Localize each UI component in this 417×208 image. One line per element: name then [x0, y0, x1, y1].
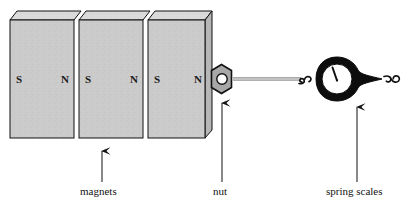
string [233, 78, 301, 81]
nut-hole [217, 74, 227, 84]
diagram-canvas [0, 0, 417, 208]
right-s-hook-icon [384, 76, 399, 82]
magnet-2-top-face [79, 11, 150, 20]
magnet-1-left-pole-label: S [16, 74, 22, 85]
physics-diagram: S N S N S N magnets nut spring scales [0, 0, 417, 208]
nut-icon [212, 65, 232, 94]
spring-scale-icon [316, 57, 382, 101]
magnet-3-left-pole-label: S [154, 74, 160, 85]
magnet-3-top-face [148, 11, 212, 20]
magnet-1-right-pole-label: N [61, 74, 69, 85]
needle-pivot [336, 79, 338, 81]
magnets-label: magnets [80, 186, 117, 197]
spring-scales-label: spring scales [326, 186, 383, 197]
magnet-3-right-pole-label: N [194, 74, 202, 85]
nut-label: nut [213, 186, 227, 197]
magnet-1-top-face [10, 11, 81, 20]
magnet-2-left-pole-label: S [85, 74, 91, 85]
magnet-2-right-pole-label: N [130, 74, 138, 85]
